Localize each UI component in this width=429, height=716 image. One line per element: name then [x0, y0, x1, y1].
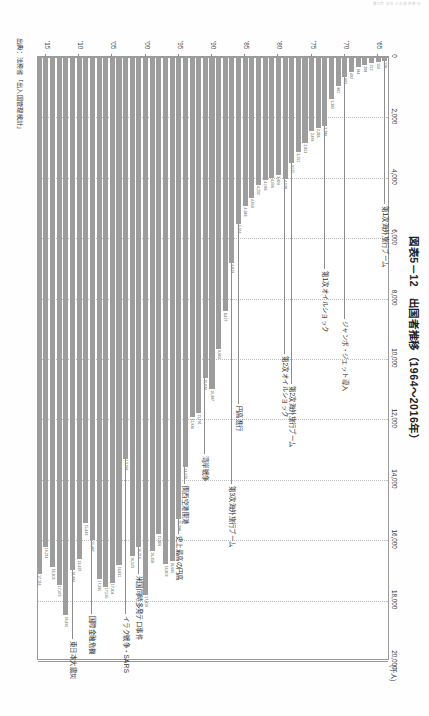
- year-tick-label: '65: [376, 41, 383, 49]
- annotation-leader-line: [324, 126, 325, 269]
- bar-value-label: 17,295: [97, 579, 101, 591]
- bar: [229, 57, 234, 263]
- annotation-leader-line: [384, 61, 385, 204]
- bar-value-label: 17,116: [37, 574, 41, 586]
- bar: [302, 57, 307, 143]
- bar-value-label: 3,909: [276, 175, 280, 185]
- value-tick-label: 0: [391, 54, 398, 58]
- bar-row: 2,466: [309, 57, 314, 661]
- bar-value-label: 16,358: [150, 551, 154, 563]
- bar-value-label: 159: [376, 62, 380, 69]
- annotation-leader-line: [138, 547, 139, 574]
- bar-value-label: 1,392: [330, 99, 334, 109]
- value-tick-label: 6,000: [391, 229, 398, 245]
- chart-annotation: 第3次海外旅行ブーム: [228, 486, 237, 548]
- bar-row: 17,535: [103, 57, 108, 661]
- bar-value-label: 15,446: [84, 523, 88, 535]
- bar-value-label: 492: [349, 72, 353, 79]
- bar-row: 2,853: [302, 57, 307, 661]
- bar-value-label: 16,803: [164, 564, 168, 576]
- bar-row: 4,232: [256, 57, 261, 661]
- bar: [336, 57, 341, 86]
- bar-row: 18,491: [63, 57, 68, 661]
- value-tick-label: 10,000: [391, 348, 398, 367]
- source-note: 出典：法務省「出入国管理統計」: [16, 38, 25, 133]
- year-tick-label: '90: [210, 41, 217, 49]
- year-tick-label: '05: [110, 41, 117, 49]
- bar: [322, 57, 327, 126]
- bar-value-label: 2,853: [303, 143, 307, 153]
- year-tick-label: '80: [276, 41, 283, 49]
- bar: [123, 57, 128, 459]
- bar-value-label: 16,831: [117, 565, 121, 577]
- annotation-leader-line: [291, 163, 292, 384]
- annotation-leader-line: [125, 459, 126, 614]
- bar-row: 17,473: [57, 57, 62, 661]
- chart-annotation: 史上最高の円高: [175, 536, 184, 581]
- bar: [37, 57, 42, 574]
- bar: [309, 57, 314, 131]
- value-tick-label: 12,000: [391, 409, 398, 428]
- bar: [103, 57, 108, 587]
- bar-row: 16,358: [150, 57, 155, 661]
- chart-annotation: イラク戦争・SARS: [122, 616, 131, 673]
- figure-title: 図表5－12 出国者推移（1964～2016年）: [407, 236, 422, 445]
- year-tick-label: '10: [77, 41, 84, 49]
- year-tick-mark: [311, 54, 312, 57]
- value-gridline: [38, 661, 388, 662]
- bar-value-label: 16,903: [51, 567, 55, 579]
- bar-row: 16,831: [117, 57, 122, 661]
- chart-page: 第5章 日本人の海外旅行 図表5－12 出国者推移（1964～2016年） 出典…: [0, 0, 429, 716]
- bar: [269, 57, 274, 178]
- bar: [63, 57, 68, 615]
- bar-row: 344: [356, 57, 361, 661]
- bar: [170, 57, 175, 561]
- bar-value-label: 4,948: [243, 206, 247, 216]
- year-tick-mark: [45, 54, 46, 57]
- bar-value-label: 3,151: [296, 152, 300, 162]
- bar: [342, 57, 347, 77]
- bar-value-label: 16,695: [170, 561, 174, 573]
- year-tick-mark: [277, 54, 278, 57]
- bar-row: 268: [362, 57, 367, 661]
- year-tick-label: '85: [243, 41, 250, 49]
- bar: [289, 57, 294, 163]
- bar-value-label: 11,791: [197, 413, 201, 425]
- bar: [196, 57, 201, 413]
- bar: [236, 57, 241, 224]
- year-tick-mark: [178, 54, 179, 57]
- bar: [296, 57, 301, 152]
- bar-row: 16,523: [130, 57, 135, 661]
- chart-annotation: 円高進行: [235, 406, 244, 432]
- year-tick-label: '00: [143, 41, 150, 49]
- bar: [143, 57, 148, 595]
- bar: [356, 57, 361, 67]
- chart-annotation: 東日本大震災: [69, 641, 78, 679]
- annotation-leader-line: [238, 224, 239, 404]
- annotation-leader-line: [178, 519, 179, 534]
- annotation-leader-line: [91, 540, 92, 614]
- bar: [130, 57, 135, 556]
- chart-annotation: 湾岸戦争: [201, 456, 210, 482]
- annotation-leader-line: [344, 77, 345, 319]
- bar-value-label: 2,466: [310, 131, 314, 141]
- bar: [283, 57, 288, 179]
- bar-row: 9,663: [216, 57, 221, 661]
- bar-value-label: 17,535: [104, 587, 108, 599]
- value-tick-label: 8,000: [391, 290, 398, 306]
- bar: [243, 57, 248, 206]
- bar: [223, 57, 228, 311]
- bar-row: 3,151: [296, 57, 301, 661]
- bar-row: 15,446: [83, 57, 88, 661]
- bar-value-label: 17,819: [144, 595, 148, 607]
- bar: [176, 57, 181, 519]
- bar: [349, 57, 354, 72]
- bar: [70, 57, 75, 570]
- year-tick-label: '75: [309, 41, 316, 49]
- year-tick-label: '70: [342, 41, 349, 49]
- bar-row: 16,637: [77, 57, 82, 661]
- annotation-leader-line: [284, 179, 285, 354]
- bar: [156, 57, 161, 534]
- plot-area: 1281592122683444926639611,3922,2892,3362…: [37, 56, 389, 660]
- bar: [57, 57, 62, 585]
